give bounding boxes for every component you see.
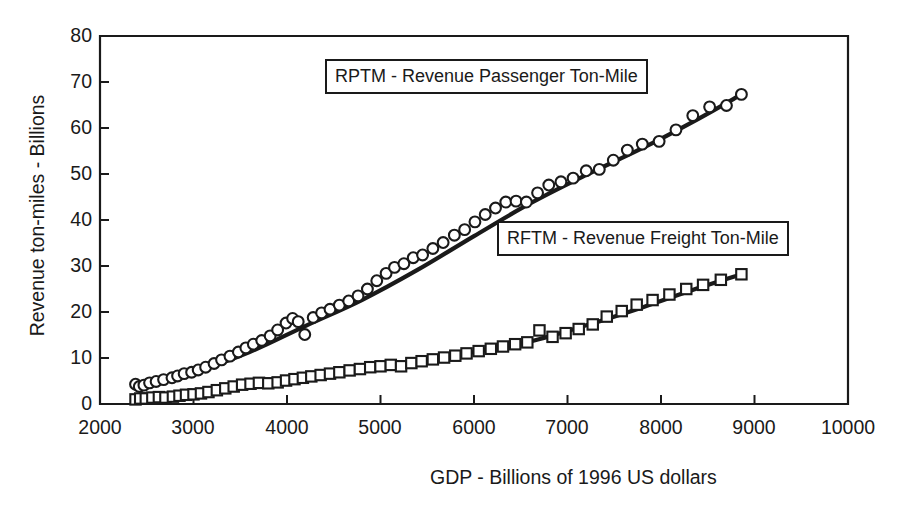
data-point-marker <box>543 180 554 191</box>
data-point-marker <box>362 284 373 295</box>
data-point-marker <box>417 250 428 261</box>
data-point-marker <box>375 361 385 371</box>
data-point-marker <box>698 280 708 290</box>
data-point-marker <box>334 367 344 377</box>
data-point-marker <box>428 354 438 364</box>
data-point-marker <box>617 306 627 316</box>
data-point-marker <box>355 364 365 374</box>
data-point-marker <box>547 332 557 342</box>
chart-figure: 80 70 60 50 40 30 20 10 0 2000 3000 4000… <box>0 0 901 505</box>
data-point-marker <box>721 100 732 111</box>
data-point-marker <box>510 339 520 349</box>
data-point-marker <box>498 341 508 351</box>
data-point-marker <box>459 224 470 235</box>
data-point-marker <box>500 197 511 208</box>
data-point-marker <box>716 275 726 285</box>
data-point-marker <box>556 176 567 187</box>
data-point-marker <box>396 361 406 371</box>
data-point-marker <box>386 360 396 370</box>
data-point-marker <box>671 124 682 135</box>
data-point-marker <box>654 136 665 147</box>
data-point-marker <box>450 351 460 361</box>
data-point-marker <box>631 299 641 309</box>
data-point-marker <box>486 344 496 354</box>
series-rftm <box>130 269 746 405</box>
data-point-marker <box>637 139 648 150</box>
trend-line <box>136 274 742 399</box>
data-point-marker <box>568 173 579 184</box>
data-point-marker <box>736 89 747 100</box>
data-point-marker <box>602 311 612 321</box>
data-point-marker <box>365 362 375 372</box>
data-point-marker <box>664 289 674 299</box>
data-point-marker <box>736 269 746 279</box>
data-point-marker <box>511 196 522 207</box>
data-point-marker <box>480 209 491 220</box>
data-point-marker <box>406 358 416 368</box>
annotation-box-rftm: RFTM - Revenue Freight Ton-Mile <box>497 221 789 256</box>
data-point-marker <box>574 324 584 334</box>
data-point-marker <box>622 145 633 156</box>
data-point-marker <box>532 187 543 198</box>
data-point-marker <box>521 197 532 208</box>
data-point-marker <box>427 243 438 254</box>
data-point-marker <box>416 356 426 366</box>
data-point-marker <box>522 337 532 347</box>
data-point-marker <box>534 325 544 335</box>
data-point-marker <box>438 237 449 248</box>
data-point-marker <box>560 328 570 338</box>
data-point-marker <box>449 230 460 241</box>
data-point-marker <box>461 348 471 358</box>
data-point-marker <box>581 165 592 176</box>
data-point-marker <box>687 110 698 121</box>
data-point-marker <box>439 352 449 362</box>
data-point-marker <box>588 319 598 329</box>
data-point-marker <box>704 101 715 112</box>
data-point-marker <box>344 365 354 375</box>
data-point-marker <box>594 164 605 175</box>
data-point-marker <box>293 316 304 327</box>
data-point-marker <box>473 346 483 356</box>
data-point-marker <box>608 155 619 166</box>
annotation-box-rptm: RPTM - Revenue Passenger Ton-Mile <box>325 59 648 94</box>
data-point-marker <box>371 275 382 286</box>
data-point-marker <box>490 203 501 214</box>
data-point-marker <box>299 329 310 340</box>
data-point-marker <box>470 216 481 227</box>
data-point-marker <box>647 295 657 305</box>
data-point-marker <box>681 284 691 294</box>
